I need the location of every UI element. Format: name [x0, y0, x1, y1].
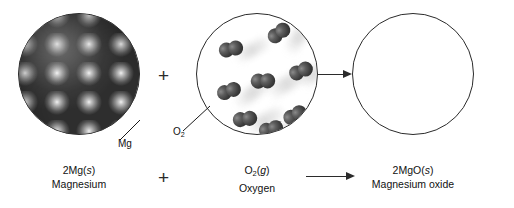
- oxygen-callout-label: O2: [173, 126, 185, 139]
- magnesium-sample-circle: [18, 13, 140, 135]
- reaction-arrow-top: [318, 70, 352, 79]
- oxygen-callout-subscript: 2: [181, 130, 185, 139]
- plus-sign-bottom: +: [158, 168, 169, 187]
- reaction-diagram: Mg + O2 2Mg(s) Magnesium + O2(g) Oxygen …: [0, 0, 514, 208]
- arrow-shaft: [318, 74, 344, 75]
- caption-oxygen: O2(g) Oxygen: [196, 163, 318, 195]
- caption-magnesium-formula: 2Mg(s): [19, 163, 139, 177]
- arrow-shaft: [306, 176, 347, 177]
- plus-sign-top-text: +: [158, 65, 169, 86]
- magnesium-oxide-product-circle: [352, 13, 474, 135]
- caption-magnesium-name: Magnesium: [19, 177, 139, 191]
- caption-magnesium: 2Mg(s) Magnesium: [19, 163, 139, 191]
- caption-magnesium-oxide-name: Magnesium oxide: [352, 177, 474, 191]
- reaction-arrow-bottom: [306, 172, 356, 181]
- magnesium-sphere-shading: [19, 14, 139, 134]
- caption-magnesium-oxide: 2MgO(s) Magnesium oxide: [352, 163, 474, 191]
- oxygen-callout-base: O: [173, 126, 181, 137]
- magnesium-callout-label: Mg: [118, 138, 132, 149]
- plus-sign-bottom-text: +: [158, 167, 169, 188]
- caption-magnesium-oxide-formula: 2MgO(s): [352, 163, 474, 177]
- plus-sign-top: +: [158, 66, 169, 85]
- caption-oxygen-name: Oxygen: [196, 181, 318, 195]
- oxygen-leader-line: [180, 104, 216, 134]
- magnesium-callout-text: Mg: [118, 138, 132, 149]
- caption-oxygen-formula: O2(g): [196, 163, 318, 181]
- oxygen-motion-streak: [283, 16, 315, 57]
- arrow-head: [343, 70, 352, 78]
